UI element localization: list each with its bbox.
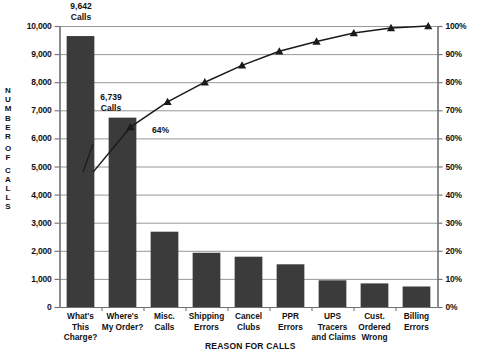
category-label-line: Billing — [396, 311, 438, 322]
category-label-line: and Claims — [312, 332, 354, 343]
category-label-line: Tracers — [312, 322, 354, 333]
y-axis-label-left: 1,000 — [0, 274, 52, 284]
y-axis-title-letter: A — [3, 175, 13, 184]
category-label-5: CancelClubs — [228, 311, 270, 332]
category-label-4: ShippingErrors — [186, 311, 228, 332]
category-label-9: BillingErrors — [396, 311, 438, 332]
y-axis-title-letter: L — [3, 193, 13, 202]
category-label-line: Errors — [396, 322, 438, 333]
y-axis-label-left: 3,000 — [0, 218, 52, 228]
y-axis-label-right: 50% — [446, 162, 462, 172]
category-label-line: UPS — [312, 311, 354, 322]
cumulative-marker-3 — [201, 78, 209, 85]
bar-5 — [235, 257, 263, 307]
y-axis-label-left: 0 — [0, 302, 52, 312]
y-axis-title-letter: S — [3, 202, 13, 211]
y-axis-label-right: 40% — [446, 190, 462, 200]
bar-9 — [403, 286, 431, 307]
bar-4 — [193, 253, 221, 307]
bar-2-value-line: 6,739 — [80, 92, 142, 103]
bar-6 — [277, 264, 305, 307]
y-axis-label-left: 2,000 — [0, 246, 52, 256]
y-axis-title-letter: E — [3, 123, 13, 132]
category-label-line: Charge? — [60, 332, 102, 343]
category-label-line: What's — [60, 311, 102, 322]
y-axis-title-letter: R — [3, 132, 13, 141]
y-axis-label-right: 30% — [446, 218, 462, 228]
category-label-line: Cust. — [354, 311, 396, 322]
y-axis-label-right: 100% — [446, 21, 467, 31]
y-axis-label-right: 80% — [446, 77, 462, 87]
y-axis-label-right: 70% — [446, 105, 462, 115]
y-axis-title-letter: O — [3, 144, 13, 153]
y-axis-title-letter: U — [3, 95, 13, 104]
category-label-line: Misc. — [144, 311, 186, 322]
category-label-line: Where's — [102, 311, 144, 322]
bar-2-value-line: Calls — [80, 103, 142, 114]
category-label-8: Cust.OrderedWrong — [354, 311, 396, 343]
category-label-2: Where'sMy Order? — [102, 311, 144, 332]
category-label-line: This — [60, 322, 102, 333]
chart-canvas — [0, 0, 490, 357]
y-axis-title: NUMBER OF CALLS — [3, 86, 13, 212]
bar-1 — [67, 36, 95, 307]
category-label-line: Wrong — [354, 332, 396, 343]
category-label-line: Ordered — [354, 322, 396, 333]
category-label-line: Clubs — [228, 322, 270, 333]
bars-group — [67, 36, 431, 307]
y-axis-label-right: 60% — [446, 133, 462, 143]
cumulative-marker-2 — [163, 98, 171, 105]
y-axis-title-letter: F — [3, 153, 13, 162]
category-label-3: Misc.Calls — [144, 311, 186, 332]
y-axis-label-right: 0% — [446, 302, 458, 312]
cumulative-percent-annotation: 64% — [152, 125, 169, 135]
x-axis-title: REASON FOR CALLS — [205, 341, 296, 351]
category-label-line: Errors — [270, 322, 312, 333]
y-axis-title-letter: L — [3, 184, 13, 193]
category-label-line: My Order? — [102, 322, 144, 333]
category-label-1: What'sThisCharge? — [60, 311, 102, 343]
bar-2 — [109, 118, 137, 307]
category-label-line: Calls — [144, 322, 186, 333]
category-label-line: Shipping — [186, 311, 228, 322]
bar-1-value-line: Calls — [50, 12, 112, 23]
category-label-7: UPSTracersand Claims — [312, 311, 354, 343]
y-axis-title-letter: C — [3, 166, 13, 175]
bar-3 — [151, 232, 179, 307]
bar-7 — [319, 280, 347, 307]
pareto-chart: 01,0002,0003,0004,0005,0006,0007,0008,00… — [0, 0, 490, 357]
cumulative-line — [93, 26, 428, 172]
y-axis-title-letter: N — [3, 86, 13, 95]
y-axis-label-right: 20% — [446, 246, 462, 256]
y-axis-label-right: 10% — [446, 274, 462, 284]
category-label-6: PPRErrors — [270, 311, 312, 332]
y-axis-label-left: 10,000 — [0, 21, 52, 31]
bar-2-value-annotation: 6,739Calls — [80, 92, 142, 113]
category-label-line: Errors — [186, 322, 228, 333]
bar-8 — [361, 283, 389, 307]
bar-1-value-line: 9,642 — [50, 1, 112, 12]
bar-1-value-annotation: 9,642Calls — [50, 1, 112, 22]
category-label-line: Cancel — [228, 311, 270, 322]
category-label-line: PPR — [270, 311, 312, 322]
y-axis-title-letter: M — [3, 104, 13, 113]
y-axis-label-left: 9,000 — [0, 49, 52, 59]
y-axis-label-right: 90% — [446, 49, 462, 59]
y-axis-title-letter: B — [3, 114, 13, 123]
